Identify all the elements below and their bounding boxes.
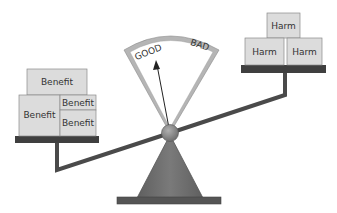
benefit-box-large-label: Benefit: [23, 110, 56, 120]
left-platform: [15, 136, 99, 143]
harm-box-bottom-right-label: Harm: [292, 47, 317, 57]
gauge: GOOD BAD: [124, 36, 219, 133]
harm-box-bottom-left-label: Harm: [252, 47, 277, 57]
harm-box-top-label: Harm: [271, 21, 296, 31]
base-triangle: [137, 135, 203, 198]
benefit-box-small-upper-label: Benefit: [62, 98, 95, 108]
benefit-box-top-label: Benefit: [41, 77, 74, 87]
left-pan: Benefit Benefit Benefit Benefit: [15, 69, 99, 143]
balance-scale-diagram: GOOD BAD Benefit Benefit Benefit Benefit…: [0, 0, 337, 213]
benefit-box-small-lower-label: Benefit: [62, 118, 95, 128]
base-plate: [117, 197, 221, 204]
pivot-icon: [162, 125, 179, 142]
right-platform: [241, 65, 326, 73]
right-pan: Harm Harm Harm: [241, 13, 326, 73]
